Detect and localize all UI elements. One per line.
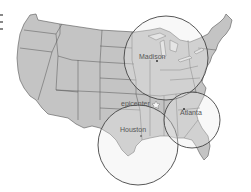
madison-label: Madison — [139, 53, 166, 60]
atlanta-label: Atlanta — [180, 109, 202, 116]
houston-label: Houston — [120, 126, 146, 133]
us-map: Madison Houston Atlanta epicenter — [0, 0, 251, 192]
madison-marker — [156, 60, 158, 62]
epicenter-label: epicenter — [121, 100, 150, 108]
houston-marker — [140, 135, 142, 137]
madison-radius-circle — [124, 16, 208, 100]
atlanta-radius-circle — [164, 92, 220, 148]
